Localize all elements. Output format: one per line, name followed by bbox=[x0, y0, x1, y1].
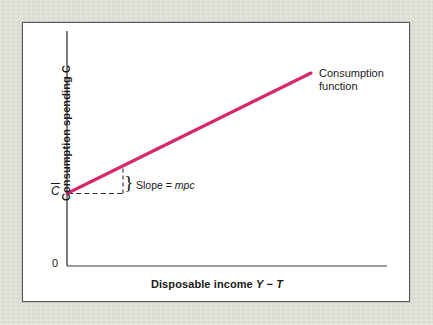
consumption-function-line bbox=[67, 73, 311, 194]
series-callout-label: Consumption function bbox=[319, 67, 384, 93]
figure-panel: Consumption spending C Disposable income… bbox=[22, 22, 410, 302]
x-axis-label-text: Disposable income bbox=[151, 278, 253, 290]
series-callout-line1: Consumption bbox=[319, 67, 384, 80]
slope-annotation-prefix: Slope = bbox=[136, 179, 172, 191]
chart-canvas bbox=[23, 23, 411, 303]
x-axis-operator: − bbox=[267, 278, 274, 290]
slope-annotation-value: mpc bbox=[175, 179, 195, 191]
origin-label: 0 bbox=[52, 257, 58, 269]
intercept-label: C bbox=[51, 183, 60, 197]
series-callout-line2: function bbox=[319, 80, 384, 93]
slope-annotation: Slope = mpc bbox=[136, 179, 195, 191]
intercept-label-text: C bbox=[51, 183, 60, 197]
y-axis-label: Consumption spending C bbox=[60, 48, 72, 218]
plot-area: Consumption spending C Disposable income… bbox=[23, 23, 409, 301]
x-axis-var-y: Y bbox=[256, 278, 263, 290]
x-axis-var-t: T bbox=[276, 278, 283, 290]
x-axis-label: Disposable income Y − T bbox=[23, 278, 411, 290]
slope-brace: } bbox=[124, 174, 134, 192]
